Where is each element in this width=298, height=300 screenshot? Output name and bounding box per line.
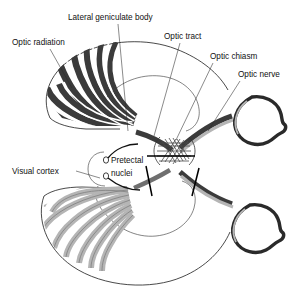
lower-eye (233, 205, 284, 253)
visual-pathway-diagram: Optic radiation Lateral geniculate body … (0, 0, 298, 300)
label-optic-chiasm: Optic chiasm (210, 52, 257, 61)
upper-optic-nerve (180, 116, 233, 152)
upper-eye (235, 97, 286, 145)
label-optic-tract: Optic tract (164, 32, 202, 41)
leader-optic-tract (154, 43, 180, 136)
diagram-canvas: Optic radiation Lateral geniculate body … (0, 0, 298, 300)
label-visual-cortex: Visual cortex (12, 167, 59, 176)
lower-optic-tract (134, 170, 170, 188)
pretectal-nuclei-group (88, 144, 140, 190)
label-pretectal-nuclei-line2: nuclei (111, 169, 133, 178)
label-optic-nerve: Optic nerve (238, 70, 280, 79)
label-optic-radiation: Optic radiation (12, 38, 65, 47)
label-lateral-geniculate-body: Lateral geniculate body (68, 13, 154, 22)
lower-optic-nerve (180, 172, 233, 207)
lower-hemisphere (41, 187, 230, 285)
label-pretectal-nuclei-line1: Pretectal (111, 156, 143, 165)
